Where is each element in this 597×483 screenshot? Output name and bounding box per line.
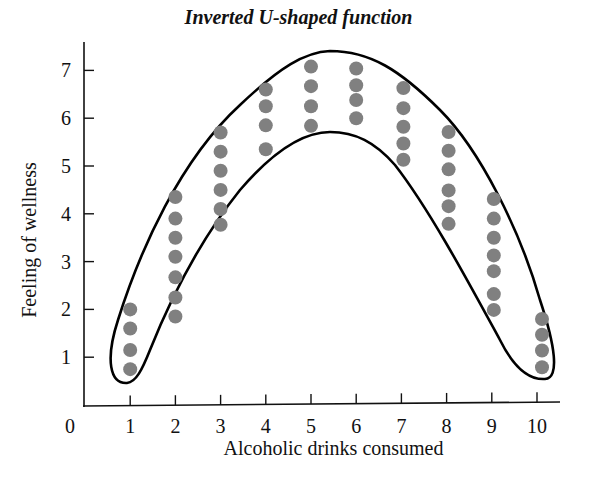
data-point [349, 61, 363, 75]
data-point [349, 93, 363, 107]
data-point [442, 217, 456, 231]
data-point [304, 60, 318, 74]
data-point [259, 83, 273, 97]
data-point [214, 183, 228, 197]
data-point [168, 190, 182, 204]
x-tick-label: 8 [442, 415, 452, 437]
x-tick-label: 6 [351, 415, 361, 437]
data-point [123, 343, 137, 357]
y-axis-ticks: 1234567 [61, 59, 94, 368]
x-tick-label: 9 [487, 415, 497, 437]
data-point [487, 212, 501, 226]
data-point [168, 310, 182, 324]
data-point [487, 264, 501, 278]
data-point [442, 199, 456, 213]
data-point [487, 303, 501, 317]
data-point [168, 270, 182, 284]
data-point [396, 81, 410, 95]
x-axis-line [83, 402, 560, 406]
x-tick-label: 1 [125, 415, 135, 437]
scatter-plot: 1234567 12345678910 0 [0, 0, 597, 483]
data-point [123, 302, 137, 316]
data-point [396, 153, 410, 167]
data-point [535, 360, 549, 374]
data-points [123, 60, 549, 377]
data-point [396, 101, 410, 115]
data-point [442, 144, 456, 158]
data-point [396, 137, 410, 151]
data-point [168, 231, 182, 245]
data-point [259, 99, 273, 113]
x-tick-label: 10 [527, 415, 547, 437]
data-point [168, 212, 182, 226]
y-tick-label: 6 [61, 107, 71, 129]
x-axis-ticks: 12345678910 [125, 392, 547, 437]
data-point [487, 287, 501, 301]
data-point [259, 142, 273, 156]
data-point [123, 362, 137, 376]
data-point [442, 162, 456, 176]
data-point [168, 250, 182, 264]
data-point [487, 192, 501, 206]
y-tick-label: 4 [61, 203, 71, 225]
y-tick-label: 5 [61, 155, 71, 177]
data-point [535, 312, 549, 326]
y-tick-label: 1 [61, 346, 71, 368]
data-point [214, 145, 228, 159]
data-point [396, 120, 410, 134]
data-point [214, 218, 228, 232]
x-tick-label: 7 [396, 415, 406, 437]
data-point [535, 344, 549, 358]
y-tick-label: 7 [61, 59, 71, 81]
data-point [442, 125, 456, 139]
data-point [442, 183, 456, 197]
x-tick-label: 4 [261, 415, 271, 437]
y-tick-label: 3 [61, 251, 71, 273]
data-point [168, 290, 182, 304]
data-point [123, 322, 137, 336]
y-tick-label: 2 [61, 298, 71, 320]
data-point [304, 79, 318, 93]
origin-label: 0 [65, 415, 75, 437]
x-tick-label: 3 [216, 415, 226, 437]
data-point [304, 119, 318, 133]
data-point [304, 99, 318, 113]
data-point [487, 248, 501, 262]
x-tick-label: 2 [170, 415, 180, 437]
data-point [349, 111, 363, 125]
data-point [214, 126, 228, 140]
data-point [349, 78, 363, 92]
x-tick-label: 5 [306, 415, 316, 437]
data-point [259, 118, 273, 132]
data-point [535, 328, 549, 342]
data-point [214, 202, 228, 216]
data-point [487, 231, 501, 245]
data-point [214, 164, 228, 178]
